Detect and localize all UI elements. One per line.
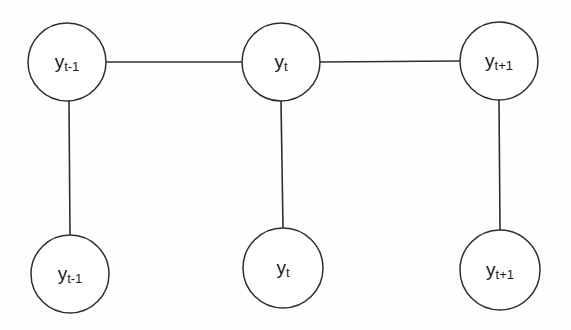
edge-top-middle-to-bottom-middle xyxy=(281,101,283,228)
diagram-canvas: yt-1ytyt+1yt-1ytyt+1 xyxy=(0,0,571,330)
edge-top-left-to-bottom-left xyxy=(69,101,70,235)
node-label-base-observed-t: y xyxy=(276,257,286,278)
edge-top-right-to-bottom-right xyxy=(499,100,500,230)
node-label-base-hidden-t: y xyxy=(274,51,284,72)
node-label-subscript-hidden-t-minus-1: t-1 xyxy=(64,59,79,74)
nodes-group: yt-1ytyt+1yt-1ytyt+1 xyxy=(28,22,540,313)
node-hidden-t-plus-1: yt+1 xyxy=(460,22,538,100)
node-label-subscript-observed-t-minus-1: t-1 xyxy=(67,271,82,286)
node-hidden-t-minus-1: yt-1 xyxy=(28,23,106,101)
node-label-subscript-hidden-t-plus-1: t+1 xyxy=(495,58,513,73)
node-hidden-t: yt xyxy=(242,23,320,101)
node-observed-t-plus-1: yt+1 xyxy=(460,230,540,310)
node-label-base-hidden-t-minus-1: y xyxy=(55,51,65,72)
node-label-subscript-observed-t-plus-1: t+1 xyxy=(496,267,514,282)
node-observed-t: yt xyxy=(243,228,323,308)
node-label-base-observed-t-plus-1: y xyxy=(486,259,496,280)
node-label-base-hidden-t-plus-1: y xyxy=(485,50,495,71)
node-label-subscript-hidden-t: t xyxy=(284,59,288,74)
graphical-model-svg: yt-1ytyt+1yt-1ytyt+1 xyxy=(0,0,571,330)
node-label-base-observed-t-minus-1: y xyxy=(58,263,68,284)
node-label-subscript-observed-t: t xyxy=(286,265,290,280)
edge-top-middle-to-top-right xyxy=(320,61,460,62)
node-observed-t-minus-1: yt-1 xyxy=(31,235,109,313)
